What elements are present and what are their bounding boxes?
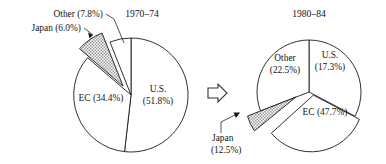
slice-us-left xyxy=(125,38,188,152)
label-ec-right: EC (47.7%) xyxy=(303,107,348,118)
chart-1980-84: 1980–84 Other (22.5%) U.S. (17.3%) EC (4… xyxy=(211,8,361,156)
chart-1970-74: 1970–74 EC (34.4%) U.S. (51.8%) Other (7… xyxy=(32,8,189,152)
label-us-right-name: U.S. xyxy=(322,50,339,60)
label-japan-right-pct: (12.5%) xyxy=(211,145,241,156)
label-ec-left: EC (34.4%) xyxy=(79,93,124,104)
label-us-left-pct: (51.8%) xyxy=(143,96,173,107)
label-us-right-pct: (17.3%) xyxy=(315,62,345,73)
chart-title-right: 1980–84 xyxy=(292,8,326,19)
chart-title-left: 1970–74 xyxy=(125,8,159,19)
label-other-left: Other (7.8%) xyxy=(54,9,103,20)
label-other-right-pct: (22.5%) xyxy=(270,65,300,76)
label-us-left-name: U.S. xyxy=(150,84,167,94)
pie-chart-figure: 1970–74 EC (34.4%) U.S. (51.8%) Other (7… xyxy=(0,0,386,164)
label-japan-left: Japan (6.0%) xyxy=(32,23,81,34)
figure-canvas: 1970–74 EC (34.4%) U.S. (51.8%) Other (7… xyxy=(0,0,386,164)
label-japan-right-name: Japan xyxy=(212,133,234,143)
right-arrow-icon xyxy=(208,84,227,102)
label-other-right-name: Other xyxy=(274,53,296,63)
slice-other-right xyxy=(257,40,309,111)
